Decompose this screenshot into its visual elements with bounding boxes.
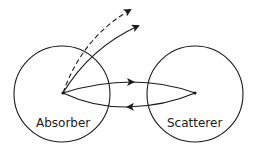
dashed-outgoing-arrow	[63, 10, 130, 93]
absorber-label: Absorber	[36, 116, 90, 130]
scattering-diagram: Absorber Scatterer	[0, 0, 255, 150]
scatterer-label: Scatterer	[167, 116, 222, 130]
solid-outgoing-arrow	[63, 26, 138, 93]
return-arc-arrow	[128, 93, 195, 107]
forward-arc-tail	[131, 82, 195, 93]
return-arc-tail	[63, 93, 130, 107]
forward-arc-arrow	[63, 82, 133, 93]
